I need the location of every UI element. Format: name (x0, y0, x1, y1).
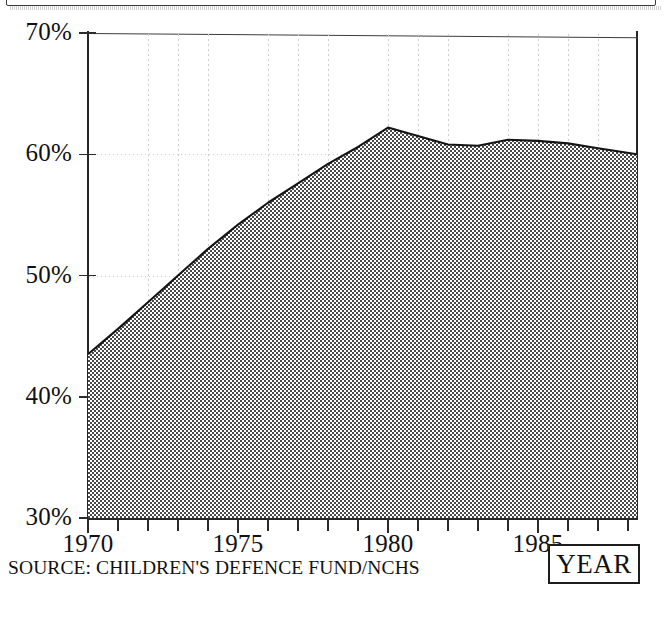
x-axis-label-1970: 1970 (62, 531, 113, 556)
y-axis-label-50%: 50% (26, 262, 72, 287)
x-tick-1979 (357, 518, 359, 531)
y-tick-40% (79, 396, 96, 398)
v-gridline-1981 (418, 34, 419, 517)
x-tick-1984 (507, 518, 509, 531)
v-gridline-1978 (328, 34, 329, 517)
x-tick-1986 (567, 518, 569, 531)
x-tick-1983 (477, 518, 479, 531)
v-gridline-1976 (268, 34, 269, 517)
plot-top-edge (87, 33, 638, 39)
v-gridline-1974 (208, 34, 209, 517)
v-gridline-1982 (448, 34, 449, 517)
h-gridline-50 (89, 276, 636, 277)
x-tick-1974 (207, 518, 209, 531)
x-tick-1971 (117, 518, 119, 531)
x-tick-1981 (417, 518, 419, 531)
x-axis-title-box: YEAR (548, 544, 640, 584)
chart-page: 30%40%50%60%70% 1970197519801985 SOURCE:… (0, 0, 664, 623)
x-axis-label-1980: 1980 (362, 531, 413, 556)
area-outline (88, 128, 637, 355)
v-gridline-1984 (508, 34, 509, 517)
source-note: SOURCE: CHILDREN'S DEFENCE FUND/NCHS (8, 558, 420, 578)
x-tick-1972 (147, 518, 149, 531)
y-axis-label-30%: 30% (26, 504, 72, 529)
v-gridline-1980 (388, 34, 389, 517)
v-gridline-1986 (568, 34, 569, 517)
x-tick-1988 (627, 518, 629, 531)
y-tick-50% (79, 275, 96, 277)
x-axis-line (87, 518, 638, 520)
y-tick-70% (79, 32, 96, 34)
h-gridline-40 (89, 397, 636, 398)
y-axis-label-60%: 60% (26, 140, 72, 165)
page-frame-shadow (10, 6, 662, 10)
x-tick-1976 (267, 518, 269, 531)
x-tick-1973 (177, 518, 179, 531)
v-gridline-1972 (148, 34, 149, 517)
x-axis-label-1975: 1975 (212, 531, 263, 556)
y-axis-label-40%: 40% (26, 383, 72, 408)
v-gridline-1977 (298, 34, 299, 517)
x-tick-1978 (327, 518, 329, 531)
h-gridline-60 (89, 154, 636, 155)
v-gridline-1985 (538, 34, 539, 517)
v-gridline-1987 (598, 34, 599, 517)
plot-right-edge (636, 31, 638, 520)
y-axis-label-70%: 70% (26, 19, 72, 44)
x-tick-1977 (297, 518, 299, 531)
area-fill (88, 128, 637, 518)
v-gridline-1973 (178, 34, 179, 517)
y-tick-60% (79, 154, 96, 156)
x-tick-1982 (447, 518, 449, 531)
x-tick-1987 (597, 518, 599, 531)
